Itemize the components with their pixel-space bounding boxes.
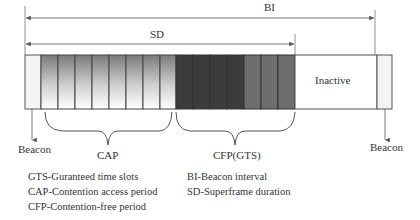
legend-cfp: CFP-Contention-free period (28, 199, 157, 214)
legend-bi: BI-Beacon interval (187, 169, 291, 184)
beacon-slot-start (25, 55, 41, 109)
cap-label: CAP (97, 149, 118, 161)
cfp-slots (176, 55, 295, 109)
beacon-slot-end (377, 55, 392, 109)
cfp-brace (176, 112, 295, 145)
legend-gts: GTS-Guranteed time slots (28, 169, 157, 184)
legend-left: GTS-Guranteed time slots CAP-Contention … (28, 169, 157, 214)
beacon-right-label: Beacon (370, 141, 403, 153)
bi-label: BI (264, 1, 275, 13)
cap-slots (41, 55, 176, 109)
cap-brace (45, 112, 172, 145)
legend-cap: CAP-Contention access period (28, 184, 157, 199)
inactive-label: Inactive (315, 74, 350, 86)
legend-right: BI-Beacon interval SD-Superframe duratio… (187, 169, 291, 199)
legend-sd: SD-Superframe duration (187, 184, 291, 199)
beacon-left-label: Beacon (18, 143, 51, 155)
cfp-label: CFP(GTS) (213, 149, 261, 161)
sd-label: SD (150, 28, 164, 40)
